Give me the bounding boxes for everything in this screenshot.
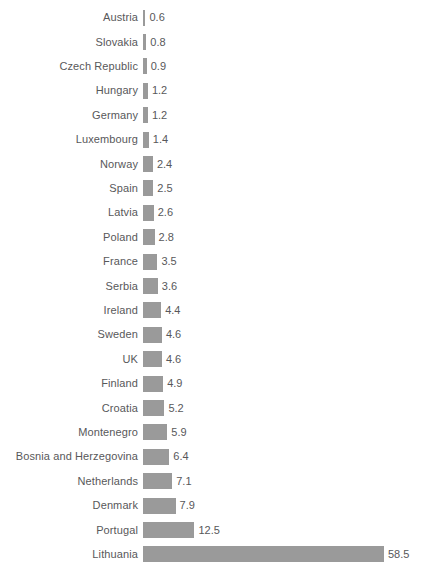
bar-row: Ireland4.4 (0, 298, 424, 322)
category-label: Latvia (0, 206, 138, 219)
category-label: Serbia (0, 280, 138, 293)
value-label: 4.9 (167, 377, 182, 390)
bar-row: Latvia2.6 (0, 201, 424, 225)
category-label: Austria (0, 11, 138, 24)
bar-row: Croatia5.2 (0, 396, 424, 420)
bar (143, 132, 149, 148)
bar (143, 254, 157, 270)
bar-track: 1.4 (143, 128, 168, 152)
bar (143, 351, 162, 367)
value-label: 0.9 (151, 60, 166, 73)
bar-row: Lithuania58.5 (0, 542, 424, 566)
bar (143, 546, 384, 562)
bar-row: Hungary1.2 (0, 79, 424, 103)
bar (143, 229, 155, 245)
value-label: 58.5 (388, 548, 409, 561)
category-label: Spain (0, 182, 138, 195)
value-label: 2.8 (159, 231, 174, 244)
category-label: UK (0, 353, 138, 366)
bar-row: France3.5 (0, 250, 424, 274)
bar-row: Luxembourg1.4 (0, 128, 424, 152)
bar-track: 0.8 (143, 30, 166, 54)
category-label: Sweden (0, 328, 138, 341)
value-label: 7.1 (176, 475, 191, 488)
bar (143, 327, 162, 343)
bar-row: Denmark7.9 (0, 494, 424, 518)
bar (143, 156, 153, 172)
bar-row: Czech Republic0.9 (0, 54, 424, 78)
bar (143, 302, 161, 318)
bar (143, 376, 163, 392)
bar-row: Bosnia and Herzegovina6.4 (0, 445, 424, 469)
bar-track: 58.5 (143, 542, 409, 566)
value-label: 2.5 (157, 182, 172, 195)
bar-track: 7.9 (143, 494, 195, 518)
bar-row: Montenegro5.9 (0, 420, 424, 444)
bar (143, 278, 158, 294)
bar-row: Spain2.5 (0, 176, 424, 200)
category-label: Portugal (0, 524, 138, 537)
value-label: 1.4 (153, 133, 168, 146)
bar-row: Finland4.9 (0, 372, 424, 396)
bar-track: 4.6 (143, 323, 181, 347)
bar-track: 5.9 (143, 420, 187, 444)
category-label: Croatia (0, 402, 138, 415)
value-label: 3.6 (162, 280, 177, 293)
bar-track: 3.6 (143, 274, 177, 298)
bar-row: Austria0.6 (0, 6, 424, 30)
bar-track: 4.4 (143, 298, 180, 322)
category-label: Czech Republic (0, 60, 138, 73)
value-label: 1.2 (152, 84, 167, 97)
bar-track: 2.4 (143, 152, 172, 176)
value-label: 12.5 (198, 524, 219, 537)
value-label: 0.6 (149, 11, 164, 24)
bar-track: 4.6 (143, 347, 181, 371)
bar-row: Portugal12.5 (0, 518, 424, 542)
bar-row: Norway2.4 (0, 152, 424, 176)
bar (143, 83, 148, 99)
value-label: 2.4 (157, 158, 172, 171)
value-label: 4.6 (166, 328, 181, 341)
value-label: 7.9 (180, 499, 195, 512)
bar (143, 205, 154, 221)
bar-row: Netherlands7.1 (0, 469, 424, 493)
bar-track: 4.9 (143, 372, 182, 396)
category-label: Poland (0, 231, 138, 244)
value-label: 2.6 (158, 206, 173, 219)
bar (143, 424, 167, 440)
category-label: Luxembourg (0, 133, 138, 146)
bar-track: 1.2 (143, 79, 167, 103)
bar-row: Sweden4.6 (0, 323, 424, 347)
category-label: Lithuania (0, 548, 138, 561)
bar (143, 34, 146, 50)
category-label: Slovakia (0, 36, 138, 49)
bar-track: 7.1 (143, 469, 192, 493)
bar-track: 5.2 (143, 396, 184, 420)
bar-track: 12.5 (143, 518, 220, 542)
bar (143, 400, 164, 416)
bar-row: Slovakia0.8 (0, 30, 424, 54)
category-label: Norway (0, 158, 138, 171)
bar (143, 522, 194, 538)
bar-row: Poland2.8 (0, 225, 424, 249)
value-label: 3.5 (161, 255, 176, 268)
category-label: Finland (0, 377, 138, 390)
bar-track: 0.6 (143, 6, 165, 30)
bar-row: Germany1.2 (0, 103, 424, 127)
bar-track: 3.5 (143, 250, 177, 274)
category-label: Denmark (0, 499, 138, 512)
bar (143, 498, 176, 514)
bar-track: 2.8 (143, 225, 174, 249)
category-label: Netherlands (0, 475, 138, 488)
category-label: France (0, 255, 138, 268)
bar-row: UK4.6 (0, 347, 424, 371)
value-label: 4.6 (166, 353, 181, 366)
bar (143, 180, 153, 196)
bar (143, 449, 169, 465)
bar-track: 2.6 (143, 201, 173, 225)
bar (143, 107, 148, 123)
bar (143, 10, 145, 26)
bar-track: 1.2 (143, 103, 167, 127)
bar-row: Serbia3.6 (0, 274, 424, 298)
